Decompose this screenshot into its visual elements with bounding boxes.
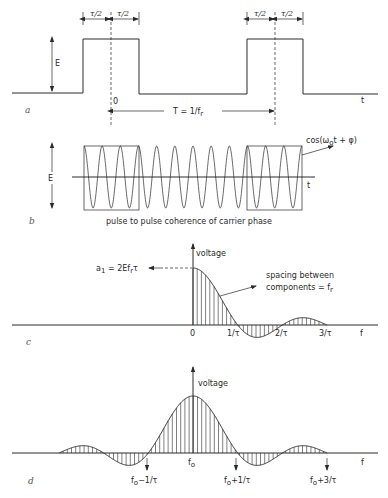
pulse-envelope-1 xyxy=(84,146,139,210)
tau-half-label: τ/2 xyxy=(281,9,293,18)
panel-label-c: c xyxy=(26,337,31,347)
panel-a-pulse-train: E τ/2 τ/2 τ/2 τ/2 0 T = 1/fr t a xyxy=(12,9,378,125)
y-axis-label: voltage xyxy=(196,249,226,258)
center-frequency-label: fo xyxy=(188,458,195,469)
pulse-envelope-2 xyxy=(247,146,302,210)
tau-half-label: τ/2 xyxy=(254,9,266,18)
x-axis-label: f xyxy=(361,458,364,467)
period-label: T = 1/fr xyxy=(172,107,203,118)
origin-label: 0 xyxy=(113,97,118,106)
carrier-label: cos(ωot + φ) xyxy=(306,136,357,147)
tau-half-label: τ/2 xyxy=(90,9,102,18)
marker-label: fo+1/τ xyxy=(224,476,251,487)
panel-label-b: b xyxy=(29,216,35,226)
panel-label-d: d xyxy=(28,476,34,486)
panel-label-a: a xyxy=(25,105,30,115)
time-axis-label: t xyxy=(361,96,364,105)
spectral-lines xyxy=(59,396,324,465)
pulse-train-waveform xyxy=(12,39,378,94)
x-tick: 3/τ xyxy=(319,329,332,338)
amplitude-label: E xyxy=(55,59,60,68)
spacing-pointer-arrow-icon xyxy=(220,286,256,296)
radar-pulse-spectrum-figure: E τ/2 τ/2 τ/2 τ/2 0 T = 1/fr t a t xyxy=(0,0,388,498)
caption: pulse to pulse coherence of carrier phas… xyxy=(106,217,272,226)
y-axis-label: voltage xyxy=(198,379,228,388)
panel-b-coherent-carrier: t E cos(ωot + φ) pulse to pulse coherenc… xyxy=(29,136,357,226)
x-tick: 1/τ xyxy=(227,329,240,338)
marker-label: fo+3/τ xyxy=(310,476,337,487)
panel-d-rf-spectrum: voltage fo fo−1/τ fo+1/τ fo+3/τ f d xyxy=(12,367,378,487)
carrier-pointer-arrow-icon xyxy=(302,146,333,155)
time-axis-label: t xyxy=(307,181,310,190)
x-tick: 2/τ xyxy=(275,329,288,338)
peak-annotation: a1 = 2Efrτ xyxy=(96,264,138,275)
panel-c-baseband-spectrum: voltage a1 = 2Efrτ spacing between compo… xyxy=(12,244,378,347)
x-tick: 0 xyxy=(190,329,195,338)
x-axis-label: f xyxy=(360,329,363,338)
amplitude-label: E xyxy=(48,174,53,183)
spacing-line-1: spacing between xyxy=(266,271,334,280)
spacing-line-2: components = fr xyxy=(266,283,333,294)
marker-label: fo−1/τ xyxy=(131,476,158,487)
tau-half-label: τ/2 xyxy=(117,9,129,18)
